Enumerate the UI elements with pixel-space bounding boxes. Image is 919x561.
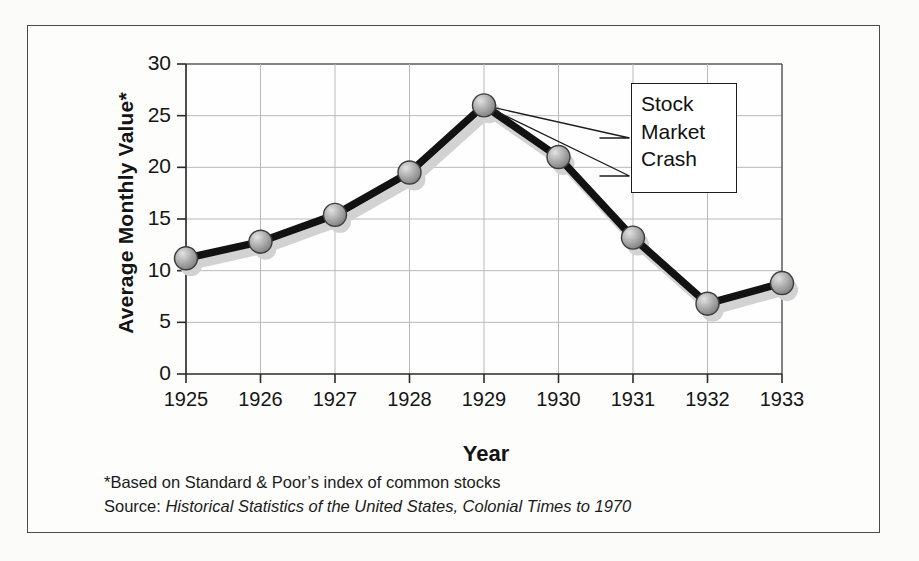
x-tick-label-1932: 1932 bbox=[668, 388, 748, 411]
footnotes: *Based on Standard & Poor’s index of com… bbox=[104, 471, 631, 519]
y-tick-label-20: 20 bbox=[129, 154, 171, 178]
x-tick-label-1931: 1931 bbox=[593, 388, 673, 411]
y-axis-ticks bbox=[177, 64, 186, 374]
x-tick-label-1925: 1925 bbox=[146, 388, 226, 411]
data-point-1931 bbox=[622, 226, 645, 249]
x-tick-label-1930: 1930 bbox=[519, 388, 599, 411]
chart-frame: Average Monthly Value* Year 302520151050… bbox=[27, 25, 880, 533]
footnote-source-title: Historical Statistics of the United Stat… bbox=[165, 497, 631, 515]
data-point-1927 bbox=[324, 203, 347, 226]
annotation-callout-box: Stock Market Crash bbox=[631, 83, 737, 193]
footnote-source: Source: Historical Statistics of the Uni… bbox=[104, 495, 631, 519]
callout-line-1: Stock bbox=[641, 90, 736, 118]
x-tick-label-1929: 1929 bbox=[444, 388, 524, 411]
figure-container: Average Monthly Value* Year 302520151050… bbox=[0, 0, 919, 561]
x-tick-label-1933: 1933 bbox=[742, 388, 822, 411]
callout-line-2: Market bbox=[641, 118, 736, 146]
x-axis-ticks bbox=[186, 374, 782, 383]
x-tick-label-1928: 1928 bbox=[370, 388, 450, 411]
x-tick-label-1927: 1927 bbox=[295, 388, 375, 411]
callout-line-3: Crash bbox=[641, 145, 736, 173]
data-point-1929 bbox=[473, 94, 496, 117]
data-point-1932 bbox=[696, 292, 719, 315]
y-tick-label-10: 10 bbox=[129, 258, 171, 282]
y-tick-label-0: 0 bbox=[129, 361, 171, 385]
y-tick-label-5: 5 bbox=[129, 309, 171, 333]
data-point-1928 bbox=[398, 161, 421, 184]
y-tick-label-15: 15 bbox=[129, 206, 171, 230]
footnote-note: *Based on Standard & Poor’s index of com… bbox=[104, 471, 631, 495]
data-point-1925 bbox=[175, 247, 198, 270]
y-tick-label-25: 25 bbox=[129, 103, 171, 127]
x-tick-label-1926: 1926 bbox=[221, 388, 301, 411]
data-point-1926 bbox=[249, 230, 272, 253]
y-tick-label-30: 30 bbox=[129, 51, 171, 75]
x-axis-title: Year bbox=[186, 441, 786, 467]
footnote-source-prefix: Source: bbox=[104, 497, 165, 515]
data-point-1933 bbox=[771, 272, 794, 295]
data-point-1930 bbox=[547, 146, 570, 169]
